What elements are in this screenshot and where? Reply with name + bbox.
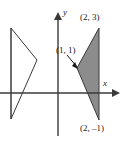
figure-canvas — [0, 0, 126, 142]
left-triangle-outline — [11, 28, 37, 119]
label-point-2-3: (2, 3) — [80, 13, 100, 22]
x-axis-label: x — [103, 79, 107, 88]
label-point-2-neg1: (2, –1) — [80, 124, 104, 133]
right-triangle-shaded — [77, 28, 99, 120]
label-point-1-1: (1, 1) — [56, 46, 76, 55]
coordinate-plane-figure: (2, 3) (2, –1) (1, 1) y x — [0, 0, 126, 142]
y-axis-arrowhead — [54, 12, 62, 20]
y-axis-label: y — [63, 8, 67, 17]
x-axis-arrowhead — [112, 89, 120, 97]
pointer-arrowhead — [72, 62, 78, 69]
